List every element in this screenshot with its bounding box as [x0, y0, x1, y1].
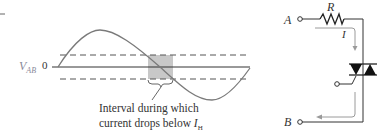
interval-annotation: Interval during which current drops belo… [99, 101, 203, 136]
resistor-label: R [327, 0, 334, 15]
return-current-arrow [320, 92, 355, 117]
node-b-terminal [298, 120, 303, 125]
interval-brace [148, 80, 173, 87]
resistor-icon [320, 14, 344, 24]
zero-label: 0 [42, 59, 48, 71]
vab-axis-label: VAB [19, 59, 36, 75]
node-a-label: A [284, 13, 291, 28]
node-b-label: B [284, 115, 291, 130]
annotation-leader [152, 87, 161, 100]
node-a-terminal [298, 17, 303, 22]
current-arrow [315, 28, 355, 48]
triac-icon [350, 64, 362, 75]
gate-terminal [335, 82, 340, 87]
current-label: I [342, 28, 346, 40]
